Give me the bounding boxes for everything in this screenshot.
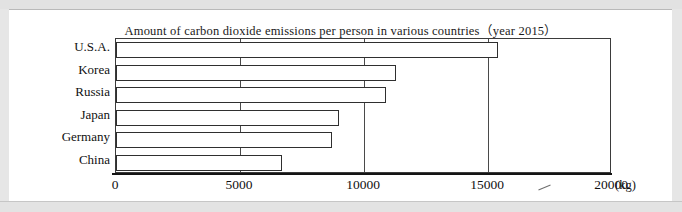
bar-row [116,155,612,171]
x-axis-unit-label: (kg) [615,178,636,193]
category-label-japan: Japan [2,107,110,123]
scan-edge-right [672,9,682,212]
category-label-korea: Korea [2,62,110,78]
x-tick-label-5000: 5000 [226,177,253,193]
x-tick-label-0: 0 [112,177,119,193]
gridline-15000 [488,39,489,172]
category-label-usa: U.S.A. [2,39,110,55]
bar-row [116,87,612,103]
x-tick-label-15000: 15000 [470,177,504,193]
bar-korea [116,65,396,81]
bar-japan [116,110,339,126]
chart-title: Amount of carbon dioxide emissions per p… [0,20,682,39]
bar-row [116,42,612,58]
category-axis-labels: U.S.A.KoreaRussiaJapanGermanyChina [0,38,110,173]
bar-row [116,65,612,81]
bar-germany [116,132,332,148]
chart-page: Amount of carbon dioxide emissions per p… [0,0,682,212]
scan-edge-top-line [0,9,682,10]
x-tick-label-10000: 10000 [346,177,380,193]
bar-row [116,110,612,126]
plot-area [115,38,611,173]
category-label-china: China [2,152,110,168]
bar-china [116,155,282,171]
gridline-5000 [240,39,241,172]
scan-edge-top [0,0,682,9]
x-axis: 05000100001500020000 (kg) [115,173,611,203]
x-axis-line [112,173,612,175]
bar-row [116,132,612,148]
category-label-russia: Russia [2,84,110,100]
scan-edge-bottom [0,202,682,212]
bar-russia [116,87,386,103]
gridline-10000 [364,39,365,172]
category-label-germany: Germany [2,129,110,145]
bar-usa [116,42,498,58]
